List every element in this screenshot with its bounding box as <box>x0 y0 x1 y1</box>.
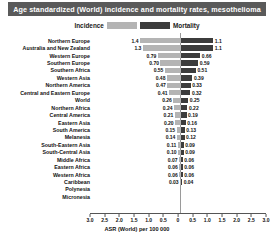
category-label: Micronesia <box>0 194 93 200</box>
mortality-value-label: 0.51 <box>197 67 207 73</box>
mortality-half: 0.06 <box>181 156 269 163</box>
category-label: Central and Eastern Europe <box>0 90 93 96</box>
incidence-bar <box>167 75 181 80</box>
incidence-value-label: 0.48 <box>156 75 166 81</box>
category-label: Southern Europe <box>0 60 93 66</box>
mortality-bar <box>181 98 188 103</box>
incidence-value-label: 0.07 <box>168 157 178 163</box>
incidence-value-label: 0.11 <box>167 142 176 148</box>
mortality-half: 0.33 <box>181 82 269 89</box>
bar-row: Eastern Africa0.060.06 <box>0 163 274 170</box>
x-axis-tick: 0.5 <box>160 214 167 223</box>
mortality-value-label: 0.59 <box>200 60 210 66</box>
incidence-value-label: 0.06 <box>168 172 178 178</box>
mortality-bar <box>181 45 213 50</box>
x-axis-tick: 0 <box>177 214 180 223</box>
mortality-half: 0.25 <box>181 97 269 104</box>
mortality-bar <box>181 60 198 65</box>
bar-row: Northern America0.470.33 <box>0 82 274 89</box>
category-label: Southern Africa <box>0 67 93 73</box>
bar-row: Caribbean0.030.04 <box>0 178 274 185</box>
bar-row: Micronesia <box>0 193 274 200</box>
legend-swatch-incidence <box>107 22 137 29</box>
category-label: South America <box>0 127 93 133</box>
category-label: Middle Africa <box>0 157 93 163</box>
incidence-value-label: 0.79 <box>147 53 157 59</box>
bar-row: Polynesia <box>0 186 274 193</box>
mortality-half: 0.66 <box>181 52 269 59</box>
tick-label: 0 <box>177 217 180 223</box>
incidence-bar <box>169 90 181 95</box>
plot-area: Northern Europe1.41.1Australia and New Z… <box>0 33 274 213</box>
mortality-value-label: 0.32 <box>192 90 202 96</box>
incidence-value-label: 0.10 <box>167 149 177 155</box>
mortality-half: 0.51 <box>181 67 269 74</box>
mortality-bar <box>181 127 185 132</box>
incidence-half: 0.10 <box>93 149 181 156</box>
bar-row: Eastern Asia0.200.16 <box>0 119 274 126</box>
category-label: World <box>0 97 93 103</box>
mortality-half: 0.09 <box>181 141 269 148</box>
incidence-bar <box>160 60 181 65</box>
bar-row: Middle Africa0.070.06 <box>0 156 274 163</box>
bar-row: Melanesia0.140.12 <box>0 134 274 141</box>
incidence-value-label: 1.3 <box>134 45 141 51</box>
incidence-value-label: 0.20 <box>164 120 174 126</box>
category-label: Eastern Asia <box>0 120 93 126</box>
incidence-half: 1.4 <box>93 37 181 44</box>
tick-label: 0.5 <box>160 217 167 223</box>
incidence-bar <box>174 105 181 110</box>
mortality-bar <box>181 53 200 58</box>
x-axis-ticks: 3.02.52.01.51.00.500.51.01.52.02.53.0 <box>90 214 266 223</box>
incidence-half: 0.55 <box>93 67 181 74</box>
x-axis-tick: 1.5 <box>219 214 226 223</box>
x-axis-tick: 2.0 <box>116 214 123 223</box>
mortality-value-label: 0.09 <box>185 149 195 155</box>
mortality-half: 0.22 <box>181 104 269 111</box>
mortality-half: 0.59 <box>181 59 269 66</box>
tick-label: 0.5 <box>189 217 196 223</box>
category-label: Australia and New Zealand <box>0 45 93 51</box>
tick-label: 1.5 <box>219 217 226 223</box>
legend-label-mortality: Mortality <box>173 22 200 29</box>
incidence-half: 0.20 <box>93 119 181 126</box>
mortality-half: 0.13 <box>181 126 269 133</box>
incidence-half: 1.3 <box>93 44 181 51</box>
mortality-half: 0.19 <box>181 111 269 118</box>
category-label: South-Central Asia <box>0 149 93 155</box>
mortality-bar <box>181 112 187 117</box>
mortality-value-label: 0.06 <box>184 157 194 163</box>
mortality-bar <box>181 75 192 80</box>
incidence-half: 0.70 <box>93 59 181 66</box>
tick-label: 1.5 <box>131 217 138 223</box>
mortality-value-label: 0.13 <box>186 127 196 133</box>
mortality-value-label: 0.22 <box>189 105 199 111</box>
mortality-value-label: 0.66 <box>202 53 212 59</box>
incidence-value-label: 0.70 <box>149 60 159 66</box>
bar-row: Central and Eastern Europe0.410.32 <box>0 89 274 96</box>
mortality-half <box>181 186 269 193</box>
chart-legend: Incidence Mortality <box>0 20 274 31</box>
incidence-value-label: 1.4 <box>131 38 138 44</box>
tick-label: 2.5 <box>101 217 108 223</box>
bar-row: Southern Europe0.700.59 <box>0 59 274 66</box>
tick-label: 2.5 <box>248 217 255 223</box>
incidence-value-label: 0.26 <box>162 97 172 103</box>
incidence-half: 0.07 <box>93 156 181 163</box>
mortality-half: 0.06 <box>181 163 269 170</box>
incidence-bar <box>158 53 181 58</box>
incidence-bar <box>165 68 181 73</box>
tick-label: 3.0 <box>87 217 94 223</box>
x-axis-tick: 1.5 <box>131 214 138 223</box>
bar-rows: Northern Europe1.41.1Australia and New Z… <box>0 37 274 201</box>
category-label: South-Eastern Asia <box>0 142 93 148</box>
incidence-value-label: 0.06 <box>168 164 178 170</box>
tick-label: 1.0 <box>145 217 152 223</box>
bar-row: Australia and New Zealand1.31.1 <box>0 44 274 51</box>
incidence-half: 0.48 <box>93 74 181 81</box>
incidence-bar <box>173 98 181 103</box>
mortality-value-label: 0.25 <box>190 97 200 103</box>
incidence-value-label: 0.55 <box>154 67 164 73</box>
tick-label: 2.0 <box>233 217 240 223</box>
incidence-half <box>93 193 181 200</box>
